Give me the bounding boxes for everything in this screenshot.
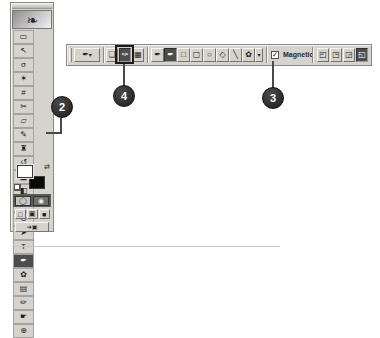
intersect-path-areas-button[interactable]: ◲ (343, 48, 355, 62)
callout-4-badge: 4 (113, 85, 135, 107)
tool-eyedropper[interactable]: ✏ (13, 296, 34, 310)
notes-icon: ▤ (20, 285, 28, 293)
tool-clone-stamp[interactable]: ♜ (13, 142, 34, 156)
toolbox-palette: ❧ ▭ ↖ σ ✶ # ✂ ▱ ✎ ♜ ↺ ◪ ◧ ♦ ⊙ ➤ T ✒ ✿ ▤ … (10, 2, 54, 232)
callout-3-number: 3 (270, 92, 276, 104)
freeform-pen-icon: ✒ (167, 51, 174, 59)
ellipse-tool-button[interactable]: ○ (203, 48, 216, 62)
tool-type[interactable]: T (13, 240, 34, 254)
tool-notes[interactable]: ▤ (13, 282, 34, 296)
slice-icon: ✂ (20, 103, 27, 111)
standard-mode-icon: ◯ (19, 197, 27, 205)
tool-healing-brush[interactable]: ▱ (13, 114, 34, 128)
tool-move[interactable]: ↖ (13, 44, 34, 58)
tool-rectangular-marquee[interactable]: ▭ (13, 30, 34, 44)
custom-shape-icon: ✿ (20, 271, 27, 279)
full-screen-menu-icon: ▣ (29, 210, 36, 218)
callout-2-number: 2 (59, 101, 65, 113)
edit-mode-buttons: ◯ ◉ (13, 194, 51, 207)
tool-preset-picker[interactable]: ✒▾ (74, 48, 100, 62)
preset-pen-icon: ✒ (82, 51, 89, 59)
callout-3-badge: 3 (262, 87, 284, 109)
options-bar-grip[interactable] (69, 48, 72, 62)
callout-4-line (123, 64, 125, 86)
toolbox-titlebar[interactable] (12, 4, 52, 9)
pen-tool-button[interactable]: ✒ (151, 48, 164, 62)
separator (103, 47, 105, 63)
polygon-tool-button[interactable]: ◇ (216, 48, 229, 62)
exclude-overlapping-path-areas-button[interactable]: ◱ (356, 48, 368, 62)
hand-icon: ☛ (20, 313, 27, 321)
polygon-icon: ◇ (219, 51, 225, 59)
callout-3-line (272, 61, 274, 88)
healing-brush-icon: ▱ (20, 117, 26, 125)
bottom-divider (12, 246, 280, 247)
jump-to-imageready-button[interactable]: ➔▣ (15, 222, 49, 232)
intersect-path-area-icon: ◲ (345, 51, 353, 59)
rectangular-marquee-icon: ▭ (20, 33, 28, 41)
brush-icon: ✎ (20, 131, 27, 139)
quick-mask-mode-button[interactable]: ◉ (33, 196, 49, 206)
fill-pixels-icon: ▦ (134, 51, 142, 59)
shape-options-dropdown[interactable]: ▾ (255, 48, 263, 62)
tool-custom-shape[interactable]: ✿ (13, 268, 34, 282)
color-swatches: ⇄ (14, 164, 52, 192)
standard-screen-icon: □ (18, 211, 22, 218)
type-icon: T (21, 243, 26, 251)
screen-mode-buttons: □ ▣ ■ (13, 208, 51, 220)
line-tool-button[interactable]: ╲ (229, 48, 242, 62)
rectangle-tool-button[interactable]: □ (177, 48, 190, 62)
zoom-icon: ⊕ (20, 327, 27, 335)
tool-lasso[interactable]: σ (13, 58, 34, 72)
foreground-color-swatch[interactable] (17, 165, 33, 178)
tool-pen[interactable]: ✒ (13, 254, 34, 268)
subtract-path-area-icon: ◳ (332, 51, 340, 59)
pen-tool-icon: ✒ (154, 51, 161, 59)
callout-2-line-horizontal (46, 132, 62, 134)
rounded-rectangle-icon: ▢ (193, 51, 201, 59)
checkmark-icon: ✓ (272, 51, 278, 59)
crop-icon: # (21, 89, 25, 97)
rectangle-icon: □ (181, 51, 186, 59)
separator (266, 47, 268, 63)
switch-colors-icon[interactable]: ⇄ (44, 163, 50, 171)
add-path-area-icon: ◰ (319, 51, 327, 59)
tool-slice[interactable]: ✂ (13, 100, 34, 114)
imageready-row: ➔▣ (13, 221, 51, 232)
full-screen-button[interactable]: ■ (39, 209, 50, 219)
paths-button-highlight-box (115, 45, 134, 64)
move-icon: ↖ (20, 47, 27, 55)
chevron-down-icon: ▾ (257, 52, 260, 58)
standard-screen-mode-button[interactable]: □ (15, 209, 26, 219)
tool-brush[interactable]: ✎ (13, 128, 34, 142)
full-screen-menu-button[interactable]: ▣ (27, 209, 38, 219)
exclude-path-area-icon: ◱ (358, 51, 366, 59)
magnetic-label: Magnetic (283, 51, 313, 58)
custom-shape-tool-icon: ✿ (245, 51, 252, 59)
tool-crop[interactable]: # (13, 86, 34, 100)
full-screen-icon: ■ (42, 211, 46, 218)
subtract-from-path-area-button[interactable]: ◳ (330, 48, 342, 62)
add-to-path-area-button[interactable]: ◰ (317, 48, 329, 62)
tool-magic-wand[interactable]: ✶ (13, 72, 34, 86)
callout-2-badge: 2 (51, 96, 73, 118)
preset-dropdown-icon: ▾ (89, 52, 92, 58)
custom-shape-tool-button[interactable]: ✿ (242, 48, 255, 62)
quick-mask-icon: ◉ (38, 197, 44, 205)
callout-4-number: 4 (121, 90, 127, 102)
magnetic-checkbox[interactable]: ✓ (271, 51, 279, 59)
feather-logo-icon: ❧ (26, 12, 38, 28)
separator (312, 47, 314, 63)
line-icon: ╲ (233, 51, 238, 59)
clone-stamp-icon: ♜ (20, 145, 27, 153)
lasso-icon: σ (21, 61, 26, 69)
rounded-rectangle-tool-button[interactable]: ▢ (190, 48, 203, 62)
options-bar: ✒▾ ❏ ✑ ▦ ✒ ✒ □ ▢ ○ ◇ ╲ ✿ ▾ ✓ Magnetic ◰ … (66, 44, 372, 66)
tool-zoom[interactable]: ⊕ (13, 324, 34, 338)
eyedropper-icon: ✏ (20, 299, 27, 307)
default-colors-icon[interactable] (14, 184, 21, 191)
standard-mode-button[interactable]: ◯ (15, 196, 31, 206)
freeform-pen-tool-button[interactable]: ✒ (164, 48, 177, 62)
tool-hand[interactable]: ☛ (13, 310, 34, 324)
imageready-icon: ➔▣ (27, 223, 38, 230)
